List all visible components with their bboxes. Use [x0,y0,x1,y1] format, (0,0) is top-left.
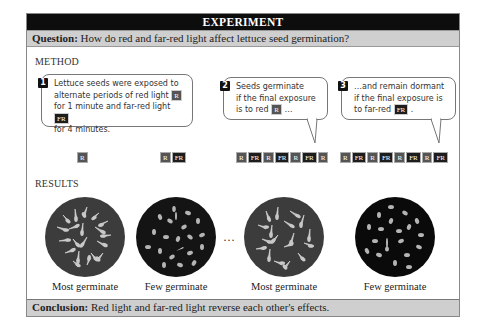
red-light-tag: R [367,152,378,163]
step-1-line-4: for 4 minutes. [54,124,186,136]
step-number-2: 2 [220,81,230,91]
method-heading: METHOD [35,56,79,67]
bubble-2-pointer [307,119,319,147]
red-light-tag: R [318,152,329,163]
far-red-light-tag: FR [172,152,187,163]
conclusion-label: Conclusion: [32,301,88,313]
step-2-line-2: if the final exposure [236,93,321,105]
method-step-2-bubble: 2 Seeds germinate if the final exposure … [223,77,328,120]
dormant-seeds-icon [355,197,435,277]
step-2-line-3: is to red R … [236,104,321,116]
far-red-light-tag: FR [352,152,367,163]
far-red-light-tag: FR [394,104,409,115]
germinated-seeds-icon [244,197,324,277]
question-text: How do red and far-red light affect lett… [78,32,349,44]
red-light-tag: R [422,152,433,163]
step-number-1: 1 [38,78,48,88]
step-1-line-2: alternate periods of red light R [54,90,186,102]
dish-2-result-label: Few germinate [126,281,226,292]
step-1-line-1: Lettuce seeds were exposed to [54,78,186,90]
question-label: Question: [32,32,78,44]
red-light-tag: R [236,152,247,163]
experiment-figure: EXPERIMENT Question: How do red and far-… [26,13,460,317]
ellipsis-more-trials: … [223,230,236,245]
far-red-light-tag: FR [302,152,317,163]
light-sequence-3: R FR R FR R FR R [236,152,328,163]
dish-4-result-label: Few germinate [345,281,445,292]
step-2-line-1: Seeds germinate [236,81,321,93]
red-light-tag: R [290,152,301,163]
germinated-seeds-icon [45,197,125,277]
red-light-tag: R [171,90,182,101]
step-1-line-3: for 1 minute and far-red light FR [54,101,186,124]
red-light-tag: R [77,152,88,163]
step-number-3: 3 [338,81,348,91]
method-step-3-bubble: 3 …and remain dormant if the final expos… [341,77,456,120]
light-sequence-2: R FR [160,152,186,163]
step-3-line-2: if the final exposure is [354,93,449,105]
far-red-light-tag: FR [406,152,421,163]
light-sequence-1: R [77,152,88,163]
petri-dish-2-dormant [136,197,216,277]
results-heading: RESULTS [35,178,79,189]
far-red-light-tag: FR [248,152,263,163]
red-light-tag: R [160,152,171,163]
red-light-tag: R [340,152,351,163]
red-light-tag: R [263,152,274,163]
red-light-tag: R [271,104,282,115]
conclusion-text: Red light and far-red light reverse each… [88,301,329,313]
step-3-line-1: …and remain dormant [354,81,449,93]
far-red-light-tag: FR [275,152,290,163]
dish-1-result-label: Most germinate [35,281,135,292]
far-red-light-tag: FR [379,152,394,163]
petri-dish-3-germinated [244,197,324,277]
method-step-1-bubble: 1 Lettuce seeds were exposed to alternat… [41,74,193,127]
light-sequence-4: R FR R FR R FR R FR [340,152,448,163]
red-light-tag: R [394,152,405,163]
dormant-seeds-icon [136,197,216,277]
dish-3-result-label: Most germinate [234,281,334,292]
conclusion-bar: Conclusion: Red light and far-red light … [27,299,459,316]
figure-title: EXPERIMENT [27,14,459,30]
petri-dish-4-dormant [355,197,435,277]
question-bar: Question: How do red and far-red light a… [27,30,459,47]
bubble-3-pointer [431,119,443,147]
petri-dish-1-germinated [45,197,125,277]
far-red-light-tag: FR [433,152,448,163]
far-red-light-tag: FR [54,113,69,124]
step-3-line-3: to far-red FR . [354,104,449,116]
